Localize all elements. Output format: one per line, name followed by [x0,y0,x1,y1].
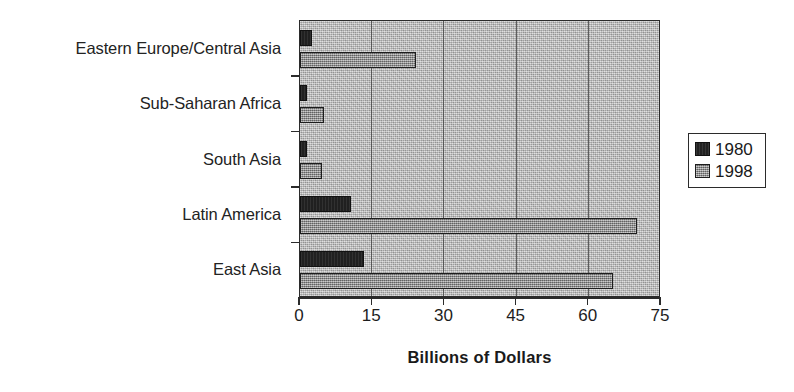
gridline [588,21,589,296]
x-axis-title: Billions of Dollars [299,348,660,367]
x-axis-tick-label: 60 [578,306,597,326]
x-axis-tick-label: 75 [651,306,670,326]
legend: 19801998 [688,133,766,188]
category-label: Eastern Europe/Central Asia [76,38,282,57]
x-axis-tick-label: 30 [434,306,453,326]
category-label: Latin America [182,204,281,223]
bar-1998-sub-saharan-africa [300,107,324,123]
bar-1998-eastern-europe-central-asia [300,52,416,68]
bar-1998-south-asia [300,163,322,179]
y-axis-tick [291,242,299,243]
bar-1998-latin-america [300,218,637,234]
bar-1980-south-asia [300,141,307,157]
y-axis-tick [291,131,299,132]
category-label: Sub-Saharan Africa [140,94,281,113]
bar-1998-east-asia [300,273,613,289]
dark-square-swatch [695,142,710,156]
gridline [443,21,444,296]
category-label: East Asia [213,260,281,279]
legend-item-label: 1998 [715,163,753,180]
bar-1980-latin-america [300,196,351,212]
x-axis-tick [443,297,444,305]
legend-item-1998: 1998 [695,160,759,182]
plot-area [299,20,660,297]
bar-1980-east-asia [300,251,364,267]
x-axis-tick [371,297,372,305]
x-axis-tick [587,297,588,305]
gridline [516,21,517,296]
bar-1980-sub-saharan-africa [300,85,307,101]
bar-1980-eastern-europe-central-asia [300,30,312,46]
y-axis-tick [291,186,299,187]
legend-item-1980: 1980 [695,138,759,160]
bar-chart-figure: Eastern Europe/Central AsiaSub-Saharan A… [0,0,794,392]
x-axis-line [298,297,661,299]
category-axis-labels: Eastern Europe/Central AsiaSub-Saharan A… [8,20,291,297]
x-axis-tick-label: 0 [294,306,303,326]
x-axis-tick-label: 15 [362,306,381,326]
legend-item-label: 1980 [715,141,753,158]
light-square-swatch [695,164,710,178]
category-label: South Asia [203,149,281,168]
x-axis-tick-label: 45 [506,306,525,326]
x-axis-tick [515,297,516,305]
y-axis-tick [291,75,299,76]
x-axis-tick [298,297,299,305]
x-axis-tick [659,297,660,305]
